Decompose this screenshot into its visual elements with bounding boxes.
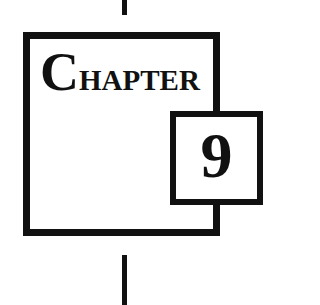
chapter-number: 9 <box>201 124 233 188</box>
chapter-rest: HAPTER <box>79 64 200 96</box>
chapter-number-box: 9 <box>170 111 263 205</box>
chapter-initial: C <box>40 42 79 102</box>
chapter-heading: CHAPTER <box>40 45 200 99</box>
top-connector-line <box>122 0 127 15</box>
bottom-connector-line <box>122 255 127 305</box>
